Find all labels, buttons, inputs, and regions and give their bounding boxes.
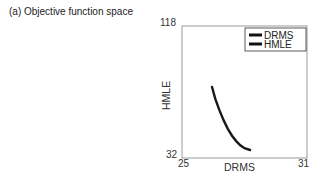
legend: DRMS HMLE bbox=[245, 28, 306, 51]
legend-label-hmle: HMLE bbox=[264, 39, 292, 50]
pareto-curve bbox=[212, 87, 250, 150]
plot-area: DRMS HMLE bbox=[0, 0, 325, 178]
